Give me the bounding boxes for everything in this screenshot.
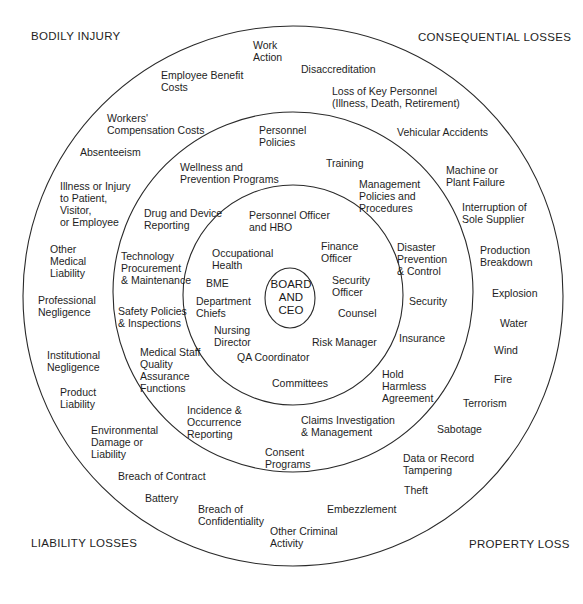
middle-item: Hold Harmless Agreement [382, 368, 433, 404]
outer-item: Fire [494, 373, 512, 385]
outer-item: Absenteeism [80, 146, 141, 158]
middle-item: Consent Programs [265, 446, 311, 470]
outer-item: Breach of Confidentiality [198, 503, 264, 527]
outer-item: Workers' Compensation Costs [107, 112, 204, 136]
outer-item: Terrorism [463, 397, 507, 409]
outer-item: Production Breakdown [480, 244, 533, 268]
outer-item: Other Criminal Activity [270, 525, 338, 549]
middle-item: Wellness and Prevention Programs [180, 161, 279, 185]
inner-item: Occupational Health [212, 247, 273, 271]
middle-item: Disaster Prevention & Control [397, 241, 447, 277]
inner-item: Personnel Officer and HBO [249, 209, 330, 233]
outer-item: Battery [145, 492, 178, 504]
inner-item: BME [206, 277, 229, 289]
outer-item: Disaccreditation [301, 63, 376, 75]
outer-item: Interruption of Sole Supplier [462, 201, 527, 225]
inner-item: Finance Officer [321, 240, 358, 264]
outer-item: Breach of Contract [118, 470, 206, 482]
corner-label-liability-losses: LIABILITY LOSSES [31, 537, 137, 549]
inner-item: QA Coordinator [237, 351, 309, 363]
middle-item: Insurance [399, 332, 445, 344]
middle-item: Technology Procurement & Maintenance [121, 250, 191, 286]
inner-item: Counsel [338, 307, 377, 319]
outer-item: Other Medical Liability [50, 243, 86, 279]
outer-item: Work Action [253, 39, 282, 63]
inner-item: Department Chiefs [196, 295, 251, 319]
inner-item: Security Officer [332, 274, 370, 298]
outer-item: Illness or Injury to Patient, Visitor, o… [60, 180, 131, 228]
middle-item: Medical Staff Quality Assurance Function… [140, 346, 201, 394]
middle-item: Personnel Policies [259, 124, 306, 148]
middle-item: Claims Investigation & Management [301, 414, 395, 438]
middle-item: Incidence & Occurrence Reporting [187, 404, 242, 440]
corner-label-property-loss: PROPERTY LOSS [469, 538, 570, 550]
outer-item: Loss of Key Personnel (Illness, Death, R… [332, 85, 460, 109]
outer-item: Institutional Negligence [47, 349, 100, 373]
outer-item: Wind [494, 344, 518, 356]
outer-item: Embezzlement [327, 503, 396, 515]
outer-item: Sabotage [437, 423, 482, 435]
risk-diagram: BODILY INJURY CONSEQUENTIAL LOSSES LIABI… [0, 0, 583, 604]
inner-item: Nursing Director [214, 324, 251, 348]
middle-item: Training [326, 157, 364, 169]
outer-item: Theft [404, 484, 428, 496]
outer-item: Data or Record Tampering [403, 452, 474, 476]
outer-item: Vehicular Accidents [397, 126, 488, 138]
middle-item: Management Policies and Procedures [359, 178, 420, 214]
outer-item: Water [500, 317, 528, 329]
outer-item: Explosion [492, 287, 538, 299]
outer-item: Professional Negligence [38, 294, 96, 318]
middle-item: Safety Policies & Inspections [118, 305, 187, 329]
outer-item: Machine or Plant Failure [446, 164, 505, 188]
inner-item: Risk Manager [312, 336, 377, 348]
board-and-ceo-label: BOARD AND CEO [266, 278, 316, 317]
corner-label-consequential-losses: CONSEQUENTIAL LOSSES [418, 31, 571, 43]
corner-label-bodily-injury: BODILY INJURY [31, 30, 121, 42]
outer-item: Product Liability [60, 386, 96, 410]
middle-item: Security [409, 295, 447, 307]
middle-item: Drug and Device Reporting [144, 207, 222, 231]
outer-item: Employee Benefit Costs [161, 69, 243, 93]
outer-item: Environmental Damage or Liability [91, 424, 158, 460]
inner-item: Committees [272, 377, 328, 389]
